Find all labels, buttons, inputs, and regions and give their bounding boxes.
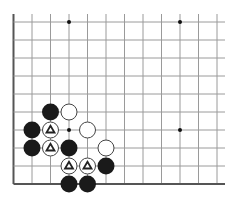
- white-stone[interactable]: [80, 122, 96, 138]
- star-point-icon: [178, 20, 182, 24]
- black-stone-icon: [24, 122, 41, 139]
- black-stone-icon: [42, 104, 59, 121]
- go-board[interactable]: [0, 0, 238, 197]
- white-stone-marked[interactable]: [61, 158, 77, 174]
- black-stone-icon: [24, 140, 41, 157]
- white-stone[interactable]: [61, 104, 77, 120]
- black-stone[interactable]: [79, 176, 96, 193]
- black-stone[interactable]: [98, 158, 115, 175]
- black-stone[interactable]: [61, 140, 78, 157]
- black-stone-icon: [61, 176, 78, 193]
- white-stone-icon: [98, 140, 114, 156]
- white-stone-icon: [80, 122, 96, 138]
- white-stone-marked[interactable]: [43, 122, 59, 138]
- black-stone[interactable]: [42, 104, 59, 121]
- star-point-icon: [67, 20, 71, 24]
- board-grid: [14, 14, 226, 184]
- black-stone-icon: [79, 176, 96, 193]
- star-point-icon: [178, 128, 182, 132]
- white-stone-icon: [61, 104, 77, 120]
- white-stone-marked[interactable]: [80, 158, 96, 174]
- white-stone[interactable]: [98, 140, 114, 156]
- black-stone[interactable]: [61, 176, 78, 193]
- black-stone-icon: [61, 140, 78, 157]
- black-stone[interactable]: [24, 140, 41, 157]
- white-stone-marked[interactable]: [43, 140, 59, 156]
- stones-layer: [24, 104, 115, 193]
- black-stone-icon: [98, 158, 115, 175]
- star-point-icon: [67, 128, 71, 132]
- black-stone[interactable]: [24, 122, 41, 139]
